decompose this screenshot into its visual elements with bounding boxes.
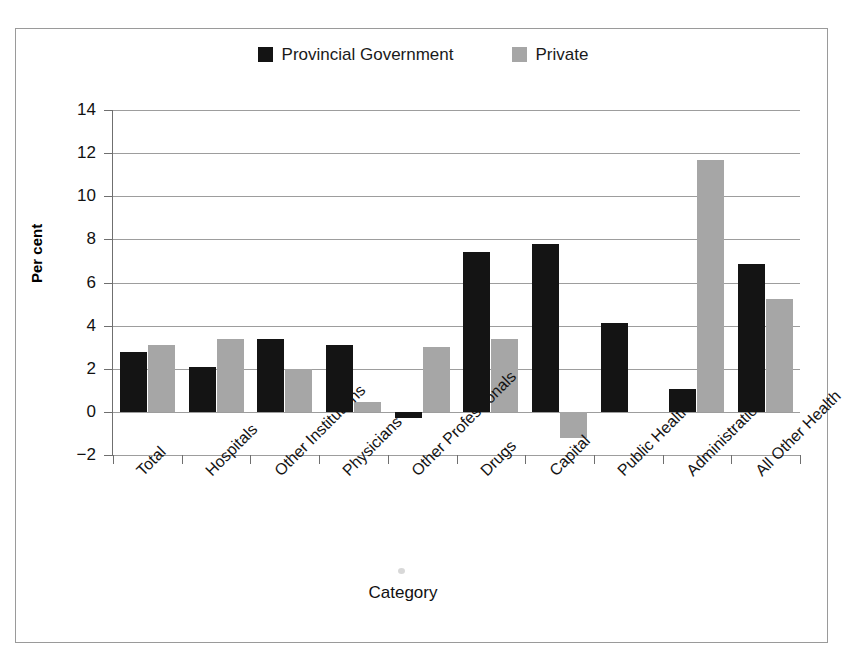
x-category-label: Total	[133, 443, 170, 480]
x-axis-title: Category	[0, 583, 846, 603]
chart-figure: Provincial Government Private Per cent −…	[0, 0, 846, 665]
x-category-label: All Other Health	[752, 387, 845, 480]
scan-artifact-speck	[398, 568, 405, 574]
x-tick-mark	[663, 455, 664, 464]
x-category-label: Drugs	[477, 437, 520, 480]
x-category-label: Capital	[546, 432, 594, 480]
x-category-label: Physicians	[339, 413, 406, 480]
x-tick-mark	[319, 455, 320, 464]
x-tick-mark	[182, 455, 183, 464]
x-tick-mark	[800, 455, 801, 464]
x-tick-mark	[250, 455, 251, 464]
x-category-label: Public Health	[614, 400, 693, 479]
x-tick-mark	[731, 455, 732, 464]
x-category-label: Hospitals	[202, 420, 261, 479]
x-tick-mark	[594, 455, 595, 464]
x-tick-mark	[388, 455, 389, 464]
x-tick-mark	[525, 455, 526, 464]
x-axis-categories: TotalHospitalsOther InstitutionsPhysicia…	[0, 0, 846, 665]
x-tick-mark	[457, 455, 458, 464]
x-tick-mark	[113, 455, 114, 464]
x-axis-title-text: Category	[369, 583, 438, 602]
